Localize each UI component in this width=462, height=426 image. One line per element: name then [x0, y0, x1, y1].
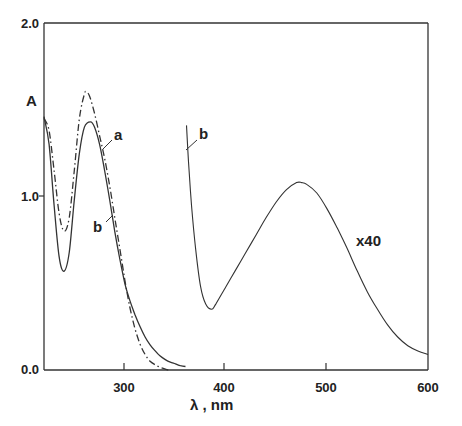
leader-a: [103, 140, 112, 149]
y-axis-title: A: [26, 92, 37, 109]
curve-b-solid: [44, 117, 186, 367]
xtick-label-500: 500: [315, 380, 337, 395]
label-curve-b: b: [93, 218, 102, 235]
curve-b-x40-solid: [187, 125, 429, 354]
ytick-label-0: 0.0: [21, 362, 39, 377]
xtick-label-600: 600: [417, 380, 439, 395]
annotation-leaders: [103, 140, 197, 222]
label-x40-scale: x40: [356, 232, 381, 249]
curve-a-dash-dot: [44, 92, 168, 370]
absorbance-chart: 2.0 1.0 0.0 300 400 500 600 A λ , nm a b…: [0, 0, 462, 426]
label-curve-b-x40: b: [199, 125, 208, 142]
ytick-label-1: 1.0: [21, 189, 39, 204]
plot-frame: [44, 23, 428, 370]
x-axis-title: λ , nm: [190, 396, 233, 413]
leader-b: [106, 215, 113, 222]
xtick-label-400: 400: [213, 380, 235, 395]
xtick-label-300: 300: [113, 380, 135, 395]
label-curve-a: a: [114, 126, 123, 143]
ytick-label-2: 2.0: [21, 16, 39, 31]
ticks: [39, 196, 326, 370]
